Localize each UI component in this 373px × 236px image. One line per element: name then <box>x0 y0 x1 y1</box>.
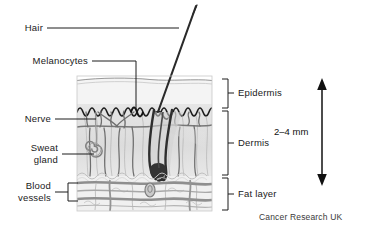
bracket-dermis <box>222 111 228 175</box>
skin-cross-section-figure: Hair Melanocytes Nerve Sweat gland Blood… <box>0 0 373 236</box>
label-nerve: Nerve <box>0 113 51 125</box>
label-thickness-scale: 2–4 mm <box>274 126 308 137</box>
label-sweat-gland-line2: gland <box>0 154 58 166</box>
leader-melanocytes <box>92 61 136 110</box>
bracket-fat-layer <box>222 178 228 210</box>
label-fat-layer: Fat layer <box>238 188 277 200</box>
leader-blood-vessels-bracket <box>68 183 78 201</box>
label-dermis: Dermis <box>238 137 269 149</box>
label-epidermis: Epidermis <box>238 87 282 99</box>
label-blood-vessels-line1: Blood <box>0 180 51 192</box>
label-blood-vessels-line2: vessels <box>0 192 51 204</box>
annotation-leaders <box>0 0 373 236</box>
label-sweat-gland-line1: Sweat <box>0 142 58 154</box>
label-hair: Hair <box>0 22 43 34</box>
figure-credit: Cancer Research UK <box>259 212 342 222</box>
thickness-arrow <box>317 78 327 186</box>
bracket-epidermis <box>222 79 228 108</box>
label-melanocytes: Melanocytes <box>0 55 88 67</box>
